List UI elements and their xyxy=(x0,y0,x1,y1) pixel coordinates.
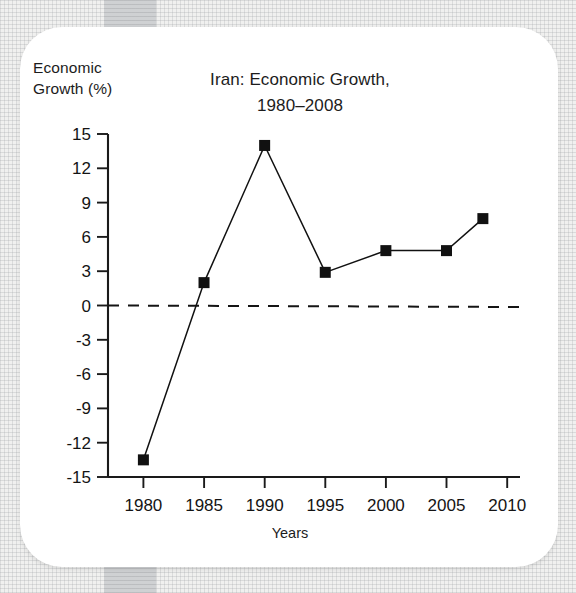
zero-reference-line xyxy=(108,306,520,308)
y-tick-label: 0 xyxy=(82,297,91,316)
figure-card: Economic Growth (%) Iran: Economic Growt… xyxy=(20,27,558,567)
y-tick-label: 9 xyxy=(82,194,91,213)
data-series-markers xyxy=(138,140,488,465)
y-tick-label: -12 xyxy=(66,434,91,453)
data-point-marker xyxy=(441,245,452,256)
y-tick-label: 3 xyxy=(82,262,91,281)
x-tick-label: 1980 xyxy=(124,496,162,515)
x-tick-label: 2005 xyxy=(428,496,466,515)
x-tick-labels: 1980 1985 1990 1995 2000 2005 2010 xyxy=(124,496,526,515)
data-point-marker xyxy=(477,213,488,224)
y-tick-labels: 15 12 9 6 3 0 -3 -6 -9 -12 -15 xyxy=(66,125,91,487)
y-tick-marks xyxy=(97,134,108,477)
chart-plot-area: 15 12 9 6 3 0 -3 -6 -9 -12 -15 xyxy=(20,27,558,567)
x-tick-label: 2000 xyxy=(367,496,405,515)
page-root: Economic Growth (%) Iran: Economic Growt… xyxy=(0,0,576,593)
x-tick-label: 1995 xyxy=(306,496,344,515)
y-tick-label: -9 xyxy=(76,399,91,418)
data-point-marker xyxy=(320,267,331,278)
x-axis-label: Years xyxy=(210,525,370,541)
chart-figure: Economic Growth (%) Iran: Economic Growt… xyxy=(20,27,558,567)
data-series-line xyxy=(143,145,482,459)
x-tick-label: 2010 xyxy=(488,496,526,515)
data-point-marker xyxy=(199,277,210,288)
x-tick-label: 1985 xyxy=(185,496,223,515)
y-tick-label: -3 xyxy=(76,331,91,350)
y-tick-label: -15 xyxy=(66,468,91,487)
x-tick-marks xyxy=(143,477,507,488)
data-point-marker xyxy=(138,454,149,465)
data-point-marker xyxy=(259,140,270,151)
y-tick-label: -6 xyxy=(76,365,91,384)
y-tick-label: 15 xyxy=(72,125,91,144)
x-tick-label: 1990 xyxy=(246,496,284,515)
data-point-marker xyxy=(380,245,391,256)
y-tick-label: 12 xyxy=(72,159,91,178)
y-tick-label: 6 xyxy=(82,228,91,247)
